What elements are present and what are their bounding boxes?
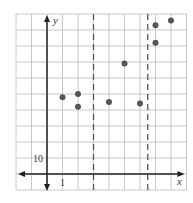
x-axis-label: x [176, 175, 182, 187]
data-point [106, 99, 112, 105]
scatter-chart: y x 1 10 [0, 0, 193, 203]
data-point [75, 104, 81, 110]
data-point [153, 22, 159, 28]
data-point [168, 17, 174, 23]
data-point [137, 101, 143, 107]
data-point [122, 61, 128, 67]
x-tick-label-1: 1 [60, 177, 65, 188]
data-point [60, 94, 66, 100]
data-point [153, 40, 159, 46]
data-point [75, 91, 81, 97]
y-axis-label: y [52, 14, 58, 26]
y-axis-up-arrow-icon [44, 15, 50, 22]
axes [18, 15, 185, 191]
data-points [60, 17, 175, 109]
y-tick-label-10: 10 [33, 153, 43, 164]
x-axis-left-arrow-icon [18, 171, 25, 177]
